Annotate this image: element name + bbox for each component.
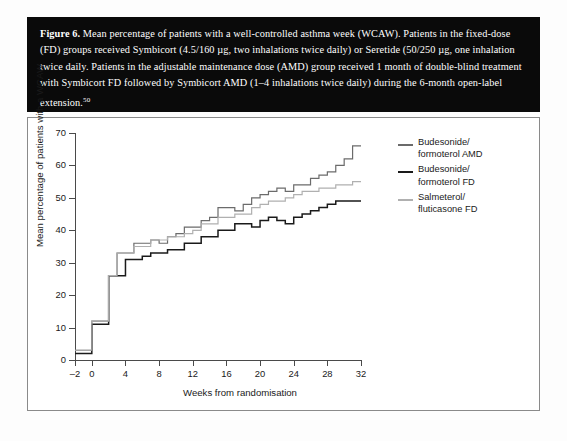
chart-legend: Budesonide/formoterol AMDBudesonide/form…: [398, 136, 528, 218]
legend-color-swatch: [398, 140, 413, 150]
legend-item-label: Budesonide/formoterol FD: [418, 163, 475, 187]
legend-item-label: Budesonide/formoterol AMD: [418, 136, 483, 160]
chart-plot-area: [0, 0, 567, 441]
y-axis-title: Mean percentage of patients with a WCAW: [34, 56, 45, 256]
legend-item[interactable]: Salmeterol/fluticasone FD: [398, 191, 528, 215]
legend-color-swatch: [398, 167, 413, 177]
x-axis-title: Weeks from randomisation: [150, 387, 330, 398]
legend-item[interactable]: Budesonide/formoterol AMD: [398, 136, 528, 160]
series-line: [75, 182, 361, 351]
legend-item[interactable]: Budesonide/formoterol FD: [398, 163, 528, 187]
legend-color-swatch: [398, 195, 413, 205]
legend-item-label: Salmeterol/fluticasone FD: [418, 191, 477, 215]
series-line: [75, 146, 361, 350]
figure-container: Figure 6. Mean percentage of patients wi…: [0, 0, 567, 441]
